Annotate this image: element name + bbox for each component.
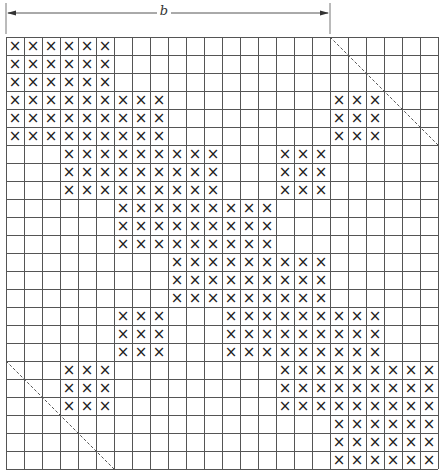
cross-mark-icon: ×: [150, 325, 168, 343]
matrix-cell-filled: ×: [60, 181, 78, 199]
matrix-cell-filled: ×: [240, 253, 258, 271]
matrix-cell-filled: ×: [114, 109, 132, 127]
cross-mark-icon: ×: [312, 181, 330, 199]
cross-mark-icon: ×: [24, 73, 42, 91]
cross-mark-icon: ×: [204, 163, 222, 181]
cross-mark-icon: ×: [294, 361, 312, 379]
matrix-cell-filled: ×: [150, 109, 168, 127]
matrix-cell-filled: ×: [240, 325, 258, 343]
matrix-cell-filled: ×: [168, 181, 186, 199]
matrix-cell-filled: ×: [132, 235, 150, 253]
cross-mark-icon: ×: [348, 415, 366, 433]
cross-mark-icon: ×: [96, 181, 114, 199]
matrix-cell-filled: ×: [312, 253, 330, 271]
matrix-cell-filled: ×: [312, 271, 330, 289]
matrix-cell-filled: ×: [258, 307, 276, 325]
cross-mark-icon: ×: [96, 55, 114, 73]
cross-mark-icon: ×: [276, 379, 294, 397]
matrix-cell-filled: ×: [384, 379, 402, 397]
matrix-cell-filled: ×: [330, 415, 348, 433]
matrix-cell-filled: ×: [330, 127, 348, 145]
cross-mark-icon: ×: [168, 271, 186, 289]
matrix-cell-filled: ×: [294, 271, 312, 289]
matrix-cell-filled: ×: [114, 163, 132, 181]
matrix-cell-filled: ×: [60, 91, 78, 109]
matrix-cell-filled: ×: [276, 181, 294, 199]
cross-mark-icon: ×: [60, 361, 78, 379]
cross-mark-icon: ×: [294, 289, 312, 307]
matrix-cell-filled: ×: [60, 379, 78, 397]
matrix-cell-filled: ×: [114, 91, 132, 109]
matrix-cell-filled: ×: [96, 109, 114, 127]
matrix-cell-filled: ×: [240, 307, 258, 325]
cross-mark-icon: ×: [42, 73, 60, 91]
matrix-cell-filled: ×: [132, 199, 150, 217]
cross-mark-icon: ×: [240, 217, 258, 235]
matrix-cell-filled: ×: [330, 91, 348, 109]
matrix-cell-filled: ×: [132, 325, 150, 343]
matrix-cell-filled: ×: [258, 271, 276, 289]
cross-mark-icon: ×: [186, 199, 204, 217]
arrowhead-left-icon: [7, 11, 16, 16]
matrix-cell-filled: ×: [348, 415, 366, 433]
cross-mark-icon: ×: [96, 73, 114, 91]
cross-mark-icon: ×: [348, 397, 366, 415]
cross-mark-icon: ×: [60, 91, 78, 109]
cross-mark-icon: ×: [60, 109, 78, 127]
matrix-cell-filled: ×: [24, 73, 42, 91]
matrix-cell-filled: ×: [96, 37, 114, 55]
cross-mark-icon: ×: [114, 307, 132, 325]
cross-mark-icon: ×: [222, 307, 240, 325]
cross-mark-icon: ×: [60, 145, 78, 163]
cross-mark-icon: ×: [60, 379, 78, 397]
matrix-cell-filled: ×: [150, 91, 168, 109]
matrix-cell-filled: ×: [168, 217, 186, 235]
matrix-cell-filled: ×: [276, 325, 294, 343]
matrix-cell-filled: ×: [78, 109, 96, 127]
cross-mark-icon: ×: [312, 307, 330, 325]
matrix-cell-filled: ×: [276, 361, 294, 379]
matrix-cell-filled: ×: [78, 163, 96, 181]
cross-mark-icon: ×: [312, 253, 330, 271]
matrix-cell-filled: ×: [6, 55, 24, 73]
matrix-cell-filled: ×: [312, 379, 330, 397]
cross-mark-icon: ×: [348, 343, 366, 361]
matrix-cell-filled: ×: [312, 325, 330, 343]
cross-mark-icon: ×: [6, 109, 24, 127]
cross-mark-icon: ×: [42, 37, 60, 55]
cross-mark-icon: ×: [276, 253, 294, 271]
matrix-cell-filled: ×: [78, 37, 96, 55]
matrix-cell-filled: ×: [132, 145, 150, 163]
matrix-cell-filled: ×: [186, 181, 204, 199]
matrix-cell-filled: ×: [294, 397, 312, 415]
cross-mark-icon: ×: [78, 37, 96, 55]
cross-mark-icon: ×: [168, 163, 186, 181]
cross-mark-icon: ×: [150, 343, 168, 361]
cross-mark-icon: ×: [24, 109, 42, 127]
cross-mark-icon: ×: [132, 217, 150, 235]
matrix-cell-filled: ×: [366, 307, 384, 325]
cross-mark-icon: ×: [6, 91, 24, 109]
cross-mark-icon: ×: [42, 55, 60, 73]
cross-mark-icon: ×: [402, 397, 420, 415]
matrix-cell-filled: ×: [294, 325, 312, 343]
cross-mark-icon: ×: [204, 271, 222, 289]
matrix-cell-filled: ×: [6, 91, 24, 109]
matrix-cell-filled: ×: [276, 343, 294, 361]
matrix-cell-filled: ×: [60, 145, 78, 163]
cross-mark-icon: ×: [312, 271, 330, 289]
matrix-cell-filled: ×: [42, 91, 60, 109]
matrix-cell-filled: ×: [96, 361, 114, 379]
cross-mark-icon: ×: [114, 181, 132, 199]
bandwidth-dimension: [0, 0, 445, 36]
matrix-cell-filled: ×: [240, 217, 258, 235]
matrix-cell-filled: ×: [168, 145, 186, 163]
matrix-cell-filled: ×: [258, 289, 276, 307]
cross-mark-icon: ×: [168, 181, 186, 199]
matrix-cell-filled: ×: [60, 109, 78, 127]
matrix-cell-filled: ×: [114, 199, 132, 217]
cross-mark-icon: ×: [240, 307, 258, 325]
cross-mark-icon: ×: [114, 163, 132, 181]
cross-mark-icon: ×: [222, 271, 240, 289]
cross-mark-icon: ×: [150, 109, 168, 127]
